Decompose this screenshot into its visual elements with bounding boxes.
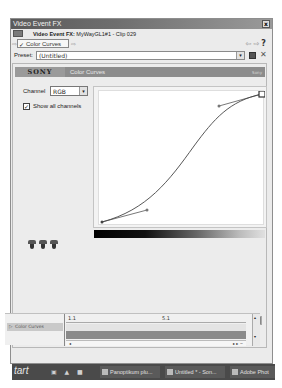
preset-label: Preset: [14,52,33,58]
channel-dropdown[interactable]: RGB ▾ [50,86,88,96]
end-handle-point[interactable] [218,105,221,108]
plugin-name: Color Curves [70,69,105,75]
start-handle-point[interactable] [146,209,149,212]
ruler-tick-2: 5.1 [162,315,170,321]
fx-subtitle-row: Video Event FX: MyWayGL1#1 - Clip 029 [11,29,272,39]
keyframe-timeline: ▷ Color Curves 1.1 5.1 ◂ ▸ ▸ − ▴ ▾ [5,313,260,345]
chevron-down-icon[interactable]: ▾ [236,52,244,59]
preset-row: Preset: (Untitled) ▾ ✕ [11,50,272,61]
keyframe-track[interactable] [66,331,246,339]
timeline-scroll-left[interactable]: ◂ [69,341,71,346]
keyframe-lane[interactable] [66,324,246,331]
timeline-vertical-scrollbar[interactable]: ▴ ▾ [252,314,260,346]
chain-tools: ⇦ ⇨? [245,39,266,48]
eyedropper-group [28,240,58,250]
curve-start-point[interactable] [101,221,104,224]
plugin-brand: Sony [252,70,262,75]
luminance-gradient [94,230,265,238]
plugin-color-curves[interactable]: ✓ Color Curves [17,39,69,48]
taskbar-item-adobe[interactable]: Adobe Phot [230,366,275,378]
plugin-panel: SONY Color Curves Sony Channel RGB ▾ ✓ S… [12,63,267,348]
task-label: Untitled * - Son... [175,369,217,375]
chain-output-arrow-icon: ⇨ [71,40,76,47]
eyedropper-white-icon[interactable] [50,240,58,249]
show-all-checkbox[interactable]: ✓ [23,103,30,110]
preset-dropdown[interactable]: (Untitled) ▾ [36,51,245,60]
curve-end-point[interactable] [259,91,265,97]
track-color-curves[interactable]: ▷ Color Curves [7,323,63,331]
tone-curve[interactable] [102,94,262,222]
chevron-down-icon[interactable]: ▾ [79,87,87,95]
app-icon [167,369,173,375]
timeline-zoom-controls[interactable]: ▸ ▸ − [233,341,243,346]
expand-icon[interactable]: ▷ [9,324,12,329]
fx-clip-name: MyWayGL1#1 - Clip 029 [76,31,136,37]
fx-event-icon [13,30,23,37]
show-all-label: Show all channels [33,103,81,109]
plugin-chain-arrows-icon[interactable]: ⇦ ⇨ [245,40,259,48]
plugin-chain: ⇨ ✓ Color Curves ⇨ ⇦ ⇨? [11,39,272,49]
plugin-header: SONY Color Curves Sony [15,67,265,77]
task-label: Panoptikum plu... [110,369,153,375]
close-button[interactable]: x [262,20,270,28]
taskbar-item-panoptikum[interactable]: Panoptikum plu... [100,366,160,378]
timeline-track-list: ▷ Color Curves [5,314,65,346]
preset-value: (Untitled) [39,52,67,59]
task-label: Adobe Phot [240,369,269,375]
fx-subtitle-prefix: Video Event FX: [33,31,75,37]
curve-editor[interactable] [93,86,267,228]
timeline-scroll-down[interactable]: ▾ [254,334,256,339]
eyedropper-gray-icon[interactable] [39,240,47,249]
quick-launch-icons[interactable]: ▣ ▲ ■ [51,368,86,375]
channel-value: RGB [53,88,66,95]
curve-graph[interactable] [99,91,265,226]
track-label: Color Curves [15,324,44,329]
save-preset-icon[interactable] [249,52,256,59]
ruler-tick-1: 1.1 [68,315,76,321]
sony-logo: SONY [15,67,65,77]
help-button[interactable]: ? [261,39,266,48]
window-titlebar[interactable]: Video Event FX x [11,19,272,29]
timeline-horizontal-scrollbar[interactable]: ◂ ▸ ▸ − [66,340,246,346]
plugin-enable-checkbox[interactable]: ✓ [19,41,24,48]
taskbar: tart ▣ ▲ ■ Panoptikum plu... Untitled * … [12,364,275,380]
timeline-ruler[interactable]: 1.1 5.1 [66,315,246,323]
taskbar-item-untitled[interactable]: Untitled * - Son... [165,366,225,378]
plugin-label: Color Curves [26,41,61,47]
fx-subtitle: Video Event FX: MyWayGL1#1 - Clip 029 [33,31,136,37]
delete-preset-button[interactable]: ✕ [260,50,267,59]
eyedropper-black-icon[interactable] [28,240,36,249]
window-title: Video Event FX [13,20,62,27]
channel-label: Channel [23,88,45,94]
start-button[interactable]: tart [14,365,28,376]
curve-graph-area[interactable] [98,90,264,225]
app-icon [102,369,108,375]
app-icon [232,369,238,375]
timeline-scroll-up[interactable]: ▴ [254,315,256,320]
